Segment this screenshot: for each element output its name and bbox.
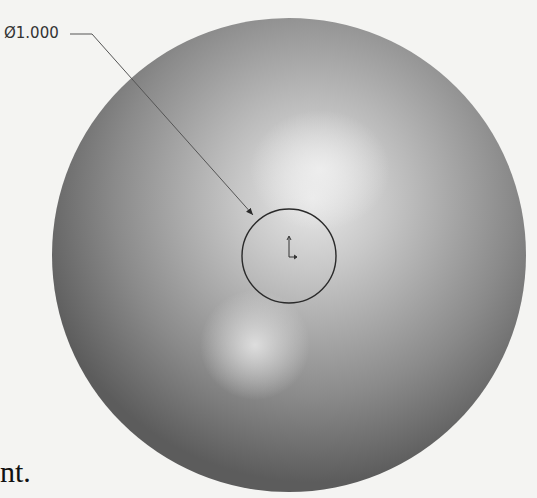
- diameter-dimension-label[interactable]: Ø1.000: [4, 24, 59, 42]
- cad-viewport: [0, 0, 537, 498]
- page-body-text: nt.: [0, 455, 31, 489]
